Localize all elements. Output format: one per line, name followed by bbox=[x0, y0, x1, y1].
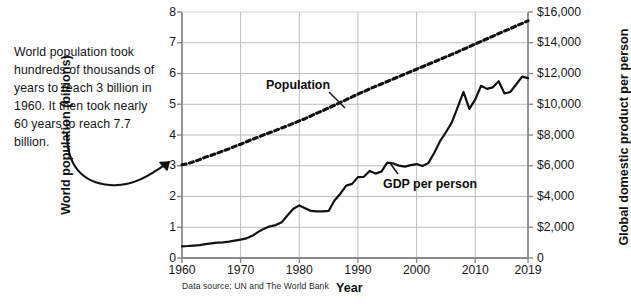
x-tick-label: 1970 bbox=[211, 263, 271, 277]
y-tick-label-right: $6,000 bbox=[537, 158, 574, 172]
series-label-gdp: GDP per person bbox=[383, 177, 477, 191]
x-axis-title: Year bbox=[336, 281, 363, 295]
y-tick-label-left: 6 bbox=[160, 66, 176, 80]
y-tick-label-right: $2,000 bbox=[537, 220, 574, 234]
y-tick-label-left: 1 bbox=[160, 220, 176, 234]
y-tick-label-right: $10,000 bbox=[537, 97, 581, 111]
x-tick-label: 2019 bbox=[498, 263, 558, 277]
x-tick-label: 1960 bbox=[152, 263, 212, 277]
y-tick-label-left: 8 bbox=[160, 5, 176, 19]
x-tick-label: 1980 bbox=[269, 263, 329, 277]
x-tick-label: 1990 bbox=[328, 263, 388, 277]
plot-gridlines bbox=[182, 12, 528, 258]
y-tick-label-left: 7 bbox=[160, 35, 176, 49]
annotation-arrow bbox=[67, 134, 169, 185]
y-tick-label-right: $8,000 bbox=[537, 128, 574, 142]
series-label-population: Population bbox=[266, 78, 330, 92]
y-axis-title-left: World population (billions) bbox=[59, 35, 73, 235]
y-axis-title-right: Global domestic product per person bbox=[617, 6, 631, 268]
y-tick-label-right: $12,000 bbox=[537, 66, 581, 80]
x-tick-label: 2000 bbox=[387, 263, 447, 277]
y-tick-label-right: $4,000 bbox=[537, 189, 574, 203]
y-tick-label-right: $16,000 bbox=[537, 5, 581, 19]
y-tick-label-left: 2 bbox=[160, 189, 176, 203]
y-tick-label-left: 4 bbox=[160, 128, 176, 142]
y-tick-label-left: 3 bbox=[160, 158, 176, 172]
y-tick-label-left: 5 bbox=[160, 97, 176, 111]
y-tick-label-right: $14,000 bbox=[537, 35, 581, 49]
data-series-layer bbox=[182, 21, 528, 246]
source-note: Data source: UN and The World Bank bbox=[182, 281, 329, 291]
x-tick-label: 2010 bbox=[445, 263, 505, 277]
series-line-gdp-per-person bbox=[182, 77, 528, 247]
